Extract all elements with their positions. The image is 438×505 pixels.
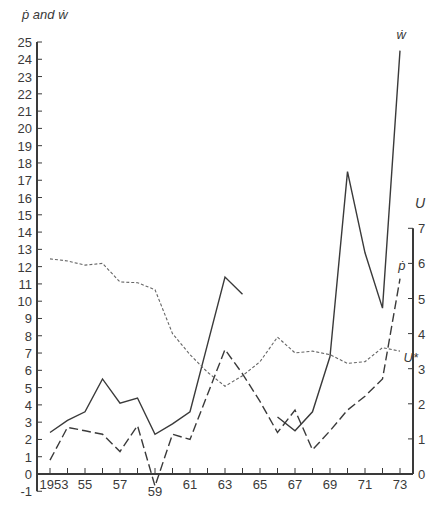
left-tick-label: 23 bbox=[18, 70, 32, 85]
left-tick-label: 11 bbox=[19, 277, 33, 292]
left-tick-label: 4 bbox=[25, 398, 32, 413]
left-tick-label: 24 bbox=[18, 52, 32, 67]
right-tick-label: 6 bbox=[418, 256, 425, 271]
left-tick-label: 21 bbox=[18, 104, 32, 119]
right-tick-label: 4 bbox=[418, 327, 425, 342]
x-tick-label: 57 bbox=[113, 477, 127, 492]
x-tick-label: 71 bbox=[358, 477, 372, 492]
x-tick-label: 63 bbox=[218, 477, 232, 492]
left-tick-label: 25 bbox=[18, 35, 32, 50]
right-tick-label: 1 bbox=[418, 432, 425, 447]
plot-series: ẇṗU* bbox=[50, 27, 419, 487]
x-tick-label: 55 bbox=[78, 477, 92, 492]
right-tick-label: 0 bbox=[418, 467, 425, 482]
left-tick-label: 7 bbox=[25, 346, 32, 361]
x-tick-label: 1953 bbox=[40, 477, 69, 492]
left-axis: -101234567891011121314151617181920212223… bbox=[18, 35, 42, 499]
left-tick-label: 17 bbox=[18, 173, 32, 188]
x-tick-label: 69 bbox=[323, 477, 337, 492]
right-tick-label: 7 bbox=[418, 221, 425, 236]
x-tick-label: 59 bbox=[148, 484, 162, 499]
series-label: ẇ bbox=[397, 27, 408, 42]
left-tick-label: 20 bbox=[18, 121, 32, 136]
left-tick-label: 8 bbox=[25, 329, 32, 344]
left-tick-label: 19 bbox=[18, 139, 32, 154]
x-tick-label: 61 bbox=[183, 477, 197, 492]
x-tick-label: 67 bbox=[288, 477, 302, 492]
x-tick-label: 65 bbox=[253, 477, 267, 492]
left-tick-label: 6 bbox=[25, 363, 32, 378]
right-tick-label: 3 bbox=[418, 362, 425, 377]
left-tick-label: 15 bbox=[18, 208, 32, 223]
left-tick-label: 14 bbox=[18, 225, 32, 240]
left-tick-label: 1 bbox=[25, 450, 32, 465]
left-tick-label: 22 bbox=[18, 87, 32, 102]
left-tick-label: 10 bbox=[18, 294, 32, 309]
left-axis-title: ṗ and ẇ bbox=[21, 7, 69, 22]
left-tick-label: 12 bbox=[18, 260, 32, 275]
left-tick-label: 18 bbox=[18, 156, 32, 171]
left-tick-label: 3 bbox=[25, 415, 32, 430]
series-line-dashed bbox=[50, 279, 400, 486]
left-tick-label: -1 bbox=[20, 484, 32, 499]
x-tick-label: 73 bbox=[393, 477, 407, 492]
left-tick-label: 16 bbox=[18, 191, 32, 206]
right-tick-label: 5 bbox=[418, 292, 425, 307]
series-label: U* bbox=[404, 350, 419, 365]
left-tick-label: 9 bbox=[25, 311, 32, 326]
x-axis: 195355575961636567697173 bbox=[37, 468, 413, 499]
series-line-solid bbox=[50, 277, 243, 434]
left-tick-label: 5 bbox=[25, 381, 32, 396]
chart: -101234567891011121314151617181920212223… bbox=[0, 0, 438, 505]
left-tick-label: 13 bbox=[18, 242, 32, 257]
right-tick-label: 2 bbox=[418, 397, 425, 412]
left-tick-label: 0 bbox=[25, 467, 32, 482]
left-tick-label: 2 bbox=[25, 432, 32, 447]
series-label: ṗ bbox=[397, 258, 405, 273]
series-line-solid bbox=[278, 51, 401, 431]
right-axis-title: U bbox=[415, 195, 426, 211]
